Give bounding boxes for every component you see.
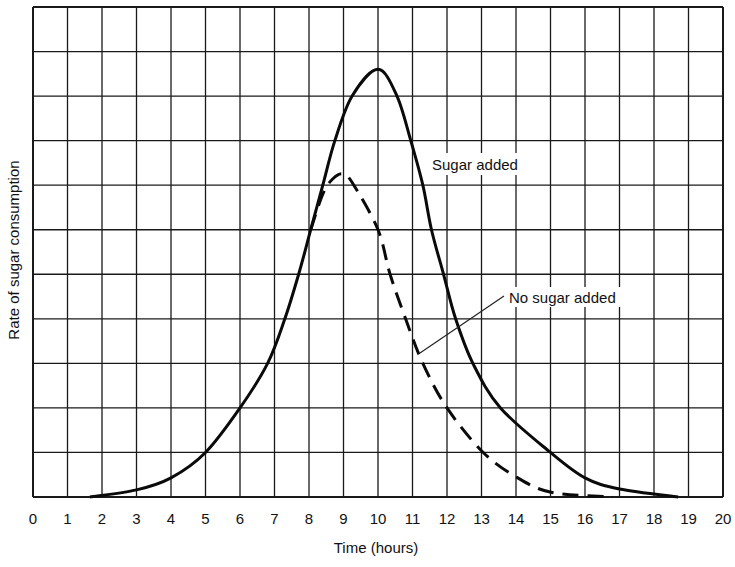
sugar-consumption-chart: Sugar added No sugar added 0123456789101… [0, 0, 735, 567]
x-tick-label: 7 [270, 510, 278, 527]
x-tick-label: 0 [29, 510, 37, 527]
x-tick-label: 2 [98, 510, 106, 527]
x-tick-label: 16 [577, 510, 594, 527]
x-axis-label: Time (hours) [334, 539, 418, 556]
sugar-added-label: Sugar added [432, 156, 518, 173]
no-sugar-added-label: No sugar added [509, 289, 616, 306]
x-tick-label: 15 [542, 510, 559, 527]
x-tick-label: 1 [63, 510, 71, 527]
x-tick-label: 18 [646, 510, 663, 527]
grid [33, 7, 723, 497]
x-tick-label: 17 [611, 510, 628, 527]
sugar-added-curve [90, 69, 678, 497]
x-tick-label: 13 [473, 510, 490, 527]
x-axis-ticks: 01234567891011121314151617181920 [29, 510, 732, 527]
x-tick-label: 4 [167, 510, 175, 527]
x-tick-label: 5 [201, 510, 209, 527]
no-sugar-leader-line [420, 296, 504, 353]
x-tick-label: 11 [405, 510, 421, 527]
series-group [90, 69, 678, 497]
x-tick-label: 6 [236, 510, 244, 527]
x-tick-label: 12 [439, 510, 456, 527]
annotations: Sugar added No sugar added [420, 153, 633, 353]
x-tick-label: 20 [715, 510, 732, 527]
x-tick-label: 14 [508, 510, 525, 527]
x-tick-label: 8 [305, 510, 313, 527]
x-tick-label: 10 [370, 510, 387, 527]
x-tick-label: 19 [680, 510, 697, 527]
x-tick-label: 9 [339, 510, 347, 527]
x-tick-label: 3 [132, 510, 140, 527]
y-axis-label: Rate of sugar consumption [5, 160, 22, 339]
